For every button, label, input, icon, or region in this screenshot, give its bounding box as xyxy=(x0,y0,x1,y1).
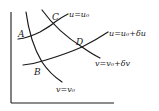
point-label-c: C xyxy=(52,12,59,22)
coordinate-diagram: A B C D u=u₀ u=u₀+δu v=v₀+δv v=v₀ xyxy=(0,0,159,111)
point-label-b: B xyxy=(33,67,41,77)
point-label-d: D xyxy=(75,37,83,47)
curve-v-v0 xyxy=(26,12,62,82)
point-label-a: A xyxy=(17,29,25,39)
curve-label-v0: v=v₀ xyxy=(56,85,76,94)
curve-label-v0-dv: v=v₀+δv xyxy=(95,59,130,68)
curve-u-u0 xyxy=(18,14,68,39)
curve-label-u0: u=u₀ xyxy=(69,10,90,19)
curve-label-u0-du: u=u₀+δu xyxy=(109,29,146,38)
